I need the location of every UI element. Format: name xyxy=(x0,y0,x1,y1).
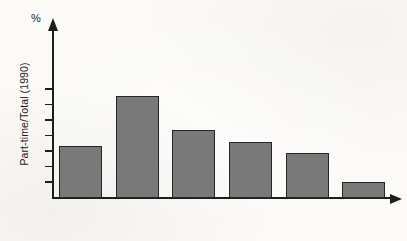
plot-area: % Part-time/Total (1990) 05101520253035 … xyxy=(0,0,407,241)
y-axis-tick-mark xyxy=(45,181,52,182)
bar-group: US xyxy=(59,43,102,198)
bar-germany xyxy=(286,153,329,198)
y-axis-tick-mark xyxy=(45,150,52,151)
y-axis-tick-mark xyxy=(45,135,52,136)
y-axis-tick-mark xyxy=(45,119,52,120)
bar-spain xyxy=(342,182,385,198)
bar-us xyxy=(59,146,102,198)
bar-group: Neth. xyxy=(116,43,159,198)
bars-layer: USNeth.UKJapanGermanySpain xyxy=(52,0,392,241)
bar-group: UK xyxy=(172,43,215,198)
y-axis-tick-mark xyxy=(45,88,52,89)
bar-chart-figure: % Part-time/Total (1990) 05101520253035 … xyxy=(0,0,407,241)
y-axis-unit-label: % xyxy=(31,12,41,24)
y-axis-tick-mark xyxy=(45,104,52,105)
bar-group: Spain xyxy=(342,43,385,198)
y-axis-tick-mark xyxy=(45,166,52,167)
bar-neth xyxy=(116,96,159,198)
bar-uk xyxy=(172,130,215,198)
bar-group: Japan xyxy=(229,43,272,198)
bar-japan xyxy=(229,142,272,198)
y-axis-title: Part-time/Total (1990) xyxy=(18,39,30,189)
bar-group: Germany xyxy=(286,43,329,198)
